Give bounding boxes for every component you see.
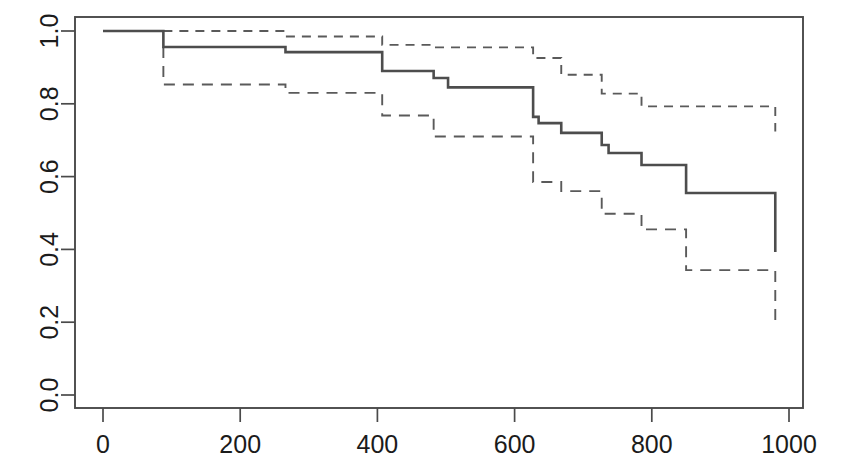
x-axis-tick-labels: 02004006008001000 — [96, 430, 817, 458]
x-tick-label: 1000 — [761, 430, 817, 458]
x-tick-label: 0 — [96, 430, 110, 458]
x-tick-label: 600 — [494, 430, 536, 458]
y-tick-label: 0.6 — [35, 159, 63, 194]
x-axis-ticks — [103, 408, 789, 422]
y-tick-label: 0.2 — [35, 305, 63, 340]
x-tick-label: 200 — [219, 430, 261, 458]
kaplan-meier-chart: 02004006008001000 0.00.20.40.60.81.0 — [0, 0, 843, 474]
y-axis-tick-labels: 0.00.20.40.60.81.0 — [35, 14, 63, 413]
x-tick-label: 800 — [631, 430, 673, 458]
y-tick-label: 0.0 — [35, 378, 63, 413]
survival-estimate-line — [103, 31, 775, 252]
y-tick-label: 0.8 — [35, 86, 63, 121]
y-tick-label: 0.4 — [35, 232, 63, 267]
y-tick-label: 1.0 — [35, 14, 63, 49]
y-axis-ticks — [61, 31, 75, 395]
plot-frame — [75, 17, 803, 408]
plot-frame-group — [75, 17, 803, 408]
x-tick-label: 400 — [357, 430, 399, 458]
lower-confidence-limit-line — [163, 47, 775, 325]
series-group — [103, 31, 775, 325]
figure-container: 02004006008001000 0.00.20.40.60.81.0 — [0, 0, 843, 474]
